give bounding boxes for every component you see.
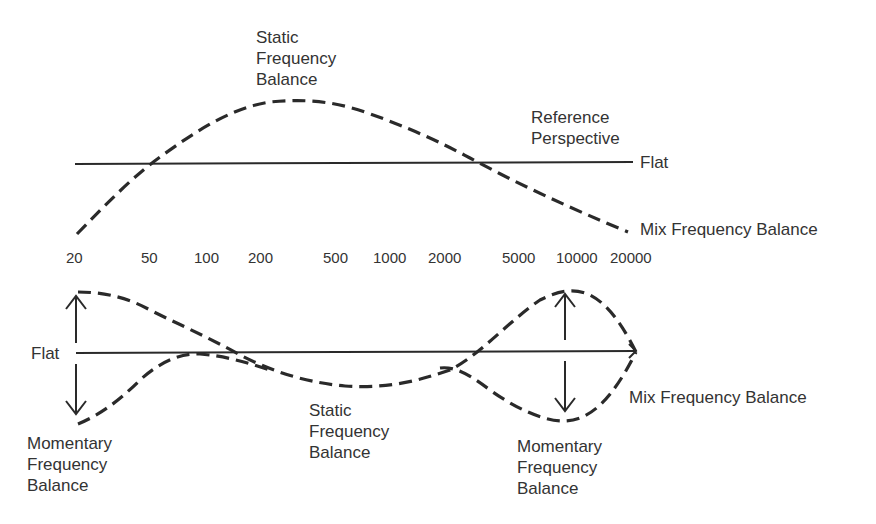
top-mix-frequency-label: Mix Frequency Balance xyxy=(640,219,818,240)
axis-tick-200: 200 xyxy=(248,249,273,267)
label-line: Perspective xyxy=(531,128,620,149)
momentary-upper-curve xyxy=(78,291,636,387)
momentary-right-label: Momentary Frequency Balance xyxy=(517,436,602,499)
bottom-flat-label: Flat xyxy=(31,343,59,364)
label-line: Balance xyxy=(309,442,389,463)
axis-tick-100: 100 xyxy=(194,249,219,267)
axis-tick-50: 50 xyxy=(141,249,158,267)
reference-perspective-label: Reference Perspective xyxy=(531,107,620,149)
label-line: Balance xyxy=(517,478,602,499)
bottom-mix-frequency-label: Mix Frequency Balance xyxy=(629,387,807,408)
axis-tick-1000: 1000 xyxy=(373,249,406,267)
label-line: Momentary xyxy=(517,436,602,457)
axis-tick-2000: 2000 xyxy=(428,249,461,267)
axis-tick-20: 20 xyxy=(66,249,83,267)
axis-tick-500: 500 xyxy=(323,249,348,267)
axis-tick-10000: 10000 xyxy=(556,249,598,267)
top-flat-label: Flat xyxy=(640,152,668,173)
frequency-balance-diagram: Static Frequency Balance Reference Persp… xyxy=(0,0,876,524)
top-flat-reference-line xyxy=(75,162,633,164)
label-line: Static xyxy=(309,400,389,421)
axis-tick-5000: 5000 xyxy=(502,249,535,267)
axis-tick-20000: 20000 xyxy=(610,249,652,267)
label-line: Momentary xyxy=(27,433,112,454)
label-line: Frequency xyxy=(309,421,389,442)
label-line: Frequency xyxy=(27,454,112,475)
momentary-left-label: Momentary Frequency Balance xyxy=(27,433,112,496)
top-static-frequency-label: Static Frequency Balance xyxy=(256,27,336,90)
label-line: Balance xyxy=(27,475,112,496)
bottom-flat-reference-line xyxy=(76,351,636,353)
bottom-static-frequency-label: Static Frequency Balance xyxy=(309,400,389,463)
label-line: Balance xyxy=(256,69,336,90)
label-line: Static xyxy=(256,27,336,48)
label-line: Reference xyxy=(531,107,620,128)
label-line: Frequency xyxy=(517,457,602,478)
label-line: Frequency xyxy=(256,48,336,69)
